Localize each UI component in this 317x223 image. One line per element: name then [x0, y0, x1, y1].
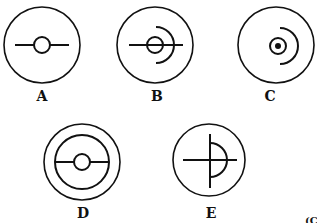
label-c: C — [264, 88, 275, 104]
right-arc — [280, 28, 298, 64]
label-d: D — [77, 205, 89, 221]
center-dot — [275, 43, 281, 49]
label-a: A — [36, 88, 49, 104]
label-b: B — [151, 88, 163, 104]
inner-circle — [74, 154, 90, 170]
inner-circle — [34, 37, 50, 53]
figure-e: E — [173, 124, 245, 221]
figure-b: B — [117, 7, 193, 104]
diagram-canvas: A B C D E (C — [0, 0, 317, 223]
figure-a: A — [4, 7, 80, 104]
corner-mark: (C — [305, 215, 317, 223]
label-e: E — [206, 205, 217, 221]
figure-d: D — [44, 124, 120, 221]
figure-c: C — [238, 7, 314, 104]
